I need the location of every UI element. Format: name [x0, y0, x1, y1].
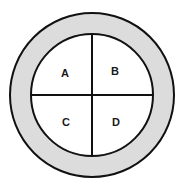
quadrant-label-a: A	[61, 67, 69, 79]
quadrant-label-b: B	[111, 65, 119, 77]
quadrant-ring-diagram: A B C D	[0, 0, 184, 186]
quadrant-label-d: D	[112, 116, 120, 128]
quadrant-label-c: C	[62, 116, 70, 128]
